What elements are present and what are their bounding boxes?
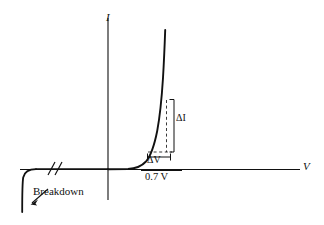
knee-voltage-label: 0.7 V <box>145 172 168 183</box>
diode-iv-characteristic-figure: I V ΔI ΔV 0.7 V Breakdown <box>0 0 324 225</box>
breakdown-label: Breakdown <box>33 186 84 197</box>
x-axis-label: V <box>303 161 310 172</box>
curve-forward-conduction <box>108 30 165 169</box>
y-axis-label: I <box>106 12 110 23</box>
delta-v-label: ΔV <box>147 155 161 165</box>
delta-i-bracket <box>170 100 175 153</box>
delta-i-label: ΔI <box>176 113 186 123</box>
